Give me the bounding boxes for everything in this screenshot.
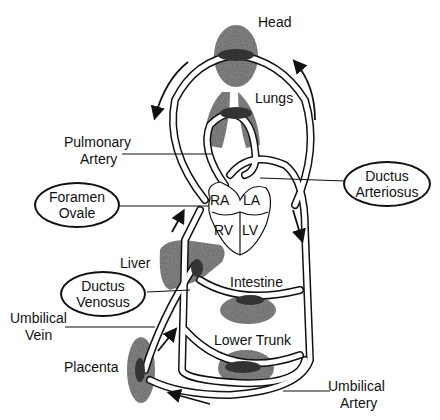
- callout-ductus-arteriosus: Ductus Arteriosus: [343, 161, 431, 207]
- callout-foramen-ovale-line1: Foramen: [49, 189, 105, 205]
- label-la: LA: [243, 192, 260, 208]
- fetal-circulation-diagram: Head Lungs Pulmonary Artery RA LA RV LV …: [0, 0, 440, 420]
- callout-ductus-venosus-line1: Ductus: [81, 278, 125, 294]
- label-ra: RA: [210, 192, 229, 208]
- arrow-foramen: [172, 212, 183, 232]
- label-lungs: Lungs: [255, 90, 293, 106]
- label-umbilical-artery-2: Artery: [340, 395, 377, 411]
- label-head: Head: [258, 14, 291, 30]
- label-liver: Liver: [120, 255, 150, 271]
- callout-ductus-arteriosus-line1: Ductus: [365, 168, 409, 184]
- label-umbilical-vein-1: Umbilical: [10, 310, 67, 326]
- label-lv: LV: [242, 222, 258, 238]
- callout-foramen-ovale-line2: Ovale: [59, 205, 96, 221]
- callout-ductus-venosus: Ductus Venosus: [60, 271, 146, 317]
- label-intestine: Intestine: [230, 274, 283, 290]
- label-umbilical-artery-1: Umbilical: [328, 378, 385, 394]
- label-lower-trunk: Lower Trunk: [214, 332, 291, 348]
- callout-foramen-ovale: Foramen Ovale: [34, 182, 120, 228]
- callout-ductus-venosus-line2: Venosus: [76, 294, 130, 310]
- label-rv: RV: [214, 222, 233, 238]
- label-pulmonary-artery-1: Pulmonary: [64, 134, 131, 150]
- label-placenta: Placenta: [64, 359, 118, 375]
- label-pulmonary-artery-2: Artery: [80, 151, 117, 167]
- label-umbilical-vein-2: Vein: [25, 327, 52, 343]
- callout-ductus-arteriosus-line2: Arteriosus: [355, 184, 418, 200]
